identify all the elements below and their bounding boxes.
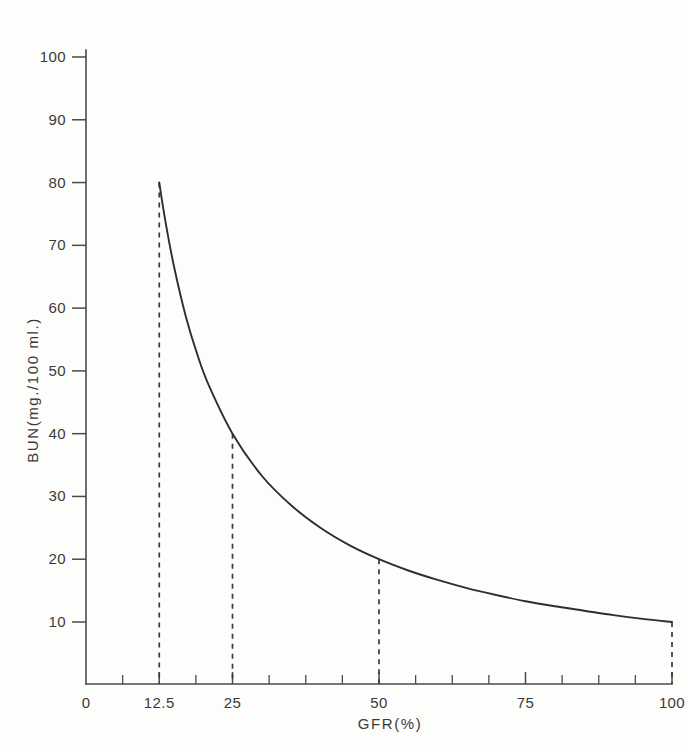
x-tick-label: 100: [659, 694, 685, 711]
y-tick-label: 100: [40, 48, 66, 65]
y-tick-label: 80: [49, 174, 67, 191]
x-axis-tick-labels: 012.5255075100: [82, 694, 685, 711]
x-tick-label: 0: [82, 694, 91, 711]
y-axis-ticks: [72, 57, 86, 622]
bun-curve: [159, 183, 672, 622]
y-tick-label: 10: [49, 613, 67, 630]
y-tick-label: 40: [49, 425, 67, 442]
x-axis-title: GFR(%): [358, 715, 423, 732]
y-tick-label: 50: [49, 362, 67, 379]
annotation-leader-lines: [159, 183, 672, 684]
bun-gfr-line-chart: 102030405060708090100 012.5255075100 GFR…: [0, 0, 688, 751]
x-tick-label: 25: [224, 694, 242, 711]
y-tick-label: 70: [49, 236, 67, 253]
y-tick-label: 20: [49, 550, 67, 567]
axis-spines: [86, 50, 672, 684]
y-tick-label: 90: [49, 111, 67, 128]
x-tick-label: 50: [370, 694, 388, 711]
x-tick-label: 12.5: [144, 694, 175, 711]
y-tick-label: 30: [49, 487, 67, 504]
y-axis-title: BUN(mg./100 ml.): [24, 317, 41, 463]
x-tick-label: 75: [517, 694, 535, 711]
y-tick-label: 60: [49, 299, 67, 316]
y-axis-tick-labels: 102030405060708090100: [40, 48, 66, 630]
chart-page: 102030405060708090100 012.5255075100 GFR…: [0, 0, 688, 751]
